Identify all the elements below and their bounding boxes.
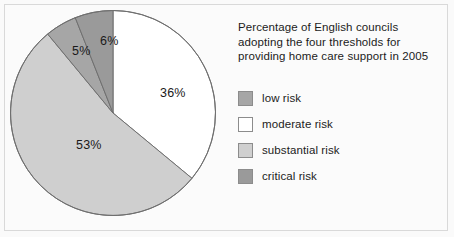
legend-swatch-low-risk [238, 91, 253, 106]
legend-label-low-risk: low risk [262, 92, 301, 104]
legend-label-critical-risk: critical risk [262, 170, 317, 182]
legend-item-substantial-risk: substantial risk [238, 137, 340, 163]
legend-item-low-risk: low risk [238, 85, 340, 111]
legend-item-moderate-risk: moderate risk [238, 111, 340, 137]
chart-title-line-2: adopting the four thresholds for [238, 35, 444, 50]
pie-label-moderate-risk: 36% [160, 86, 186, 100]
chart-legend: low risk moderate risk substantial risk … [238, 85, 340, 189]
legend-swatch-substantial-risk [238, 143, 253, 158]
chart-title-line-1: Percentage of English councils [238, 20, 444, 35]
legend-swatch-moderate-risk [238, 117, 253, 132]
legend-swatch-critical-risk [238, 169, 253, 184]
pie-label-critical-risk: 6% [100, 34, 118, 48]
legend-label-moderate-risk: moderate risk [262, 118, 333, 130]
legend-label-substantial-risk: substantial risk [262, 144, 340, 156]
legend-item-critical-risk: critical risk [238, 163, 340, 189]
pie-chart: 36% 53% 5% 6% [10, 10, 216, 216]
chart-canvas: 36% 53% 5% 6% Percentage of English coun… [0, 0, 454, 237]
chart-title: Percentage of English councils adopting … [238, 20, 444, 64]
pie-label-low-risk: 5% [72, 44, 90, 58]
chart-title-line-3: providing home care support in 2005 [238, 49, 444, 64]
pie-label-substantial-risk: 53% [76, 138, 102, 152]
